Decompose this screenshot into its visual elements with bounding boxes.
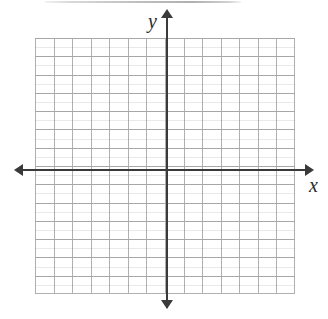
graph-grid xyxy=(35,38,295,294)
y-axis-line xyxy=(166,14,168,308)
x-axis-arrow-left-icon xyxy=(14,164,23,176)
x-axis-line xyxy=(20,169,310,171)
y-axis-arrow-up-icon xyxy=(161,9,173,18)
x-axis-label: x xyxy=(309,175,318,195)
y-axis-arrow-down-icon xyxy=(161,300,173,309)
page-divider-rule xyxy=(45,1,241,3)
y-axis-label: y xyxy=(148,11,157,31)
coordinate-plane-figure: y x xyxy=(0,0,328,319)
